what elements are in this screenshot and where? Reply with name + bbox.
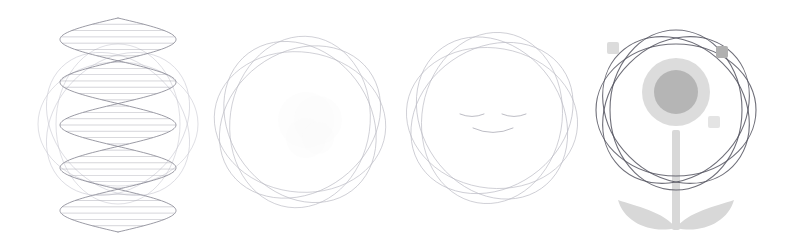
figure-dna-double-helix: [8, 0, 203, 248]
leaf-right: [676, 200, 734, 230]
leaf-left: [618, 200, 676, 230]
ghost-blob: [302, 122, 334, 154]
orbit-ellipse-3: [408, 21, 576, 215]
electron-upper-right: [716, 46, 728, 58]
orbit-ellipse-3: [56, 44, 180, 204]
nucleus-core: [654, 70, 698, 114]
orbit-ellipse-4: [398, 11, 588, 224]
orbit-ellipse-2: [398, 7, 588, 228]
orbit-ellipse-1: [38, 62, 198, 186]
figure-plain-orbit-rosette: [205, 0, 395, 248]
illustration-canvas: [0, 0, 785, 248]
smiley-face-group: [460, 114, 526, 133]
rosette-ghost-shape: [278, 92, 342, 158]
figure-atom-flower: [590, 0, 785, 248]
eye-right-closed: [502, 114, 526, 117]
electron-upper-left: [607, 42, 619, 54]
mouth-smile: [473, 128, 513, 133]
flower-plant-group: [618, 130, 734, 230]
eye-left-closed: [460, 114, 484, 117]
atom-nucleus-group: [642, 58, 710, 126]
electron-lower-right: [708, 116, 720, 128]
flower-stem: [672, 130, 680, 230]
orbit-ellipse-1: [398, 34, 588, 202]
figure-smiling-face-rosette: [398, 0, 588, 248]
face-orbit-group: [398, 7, 588, 228]
